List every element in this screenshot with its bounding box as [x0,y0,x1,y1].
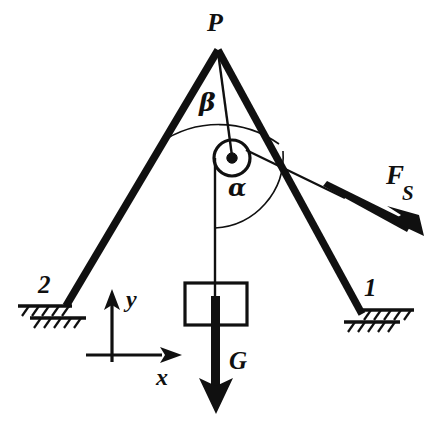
statics-diagram: β α F S [0,0,439,425]
bar-2-member [66,50,218,306]
support-2-label: 2 [37,271,51,298]
support-1-label: 1 [364,274,377,301]
axis-y-label: y [123,286,137,312]
angle-beta-label: β [198,88,216,117]
axis-x-arrowhead [160,347,182,363]
force-weight-shaft [211,296,220,389]
force-weight-vector: G [199,296,247,414]
pulley [214,140,250,176]
force-weight-label: G [229,347,247,374]
force-cable-arrowhead [387,206,424,236]
apex-label: P [206,8,224,37]
support-2: 2 [18,271,86,328]
force-cable-label-subscript-S: S [402,181,414,205]
force-cable-vector: F S [323,160,424,236]
axis-x-label: x [155,364,168,390]
coordinate-axes: y x [86,286,182,390]
pulley-axle-hub [227,153,237,163]
figure-canvas: β α F S [0,0,439,425]
